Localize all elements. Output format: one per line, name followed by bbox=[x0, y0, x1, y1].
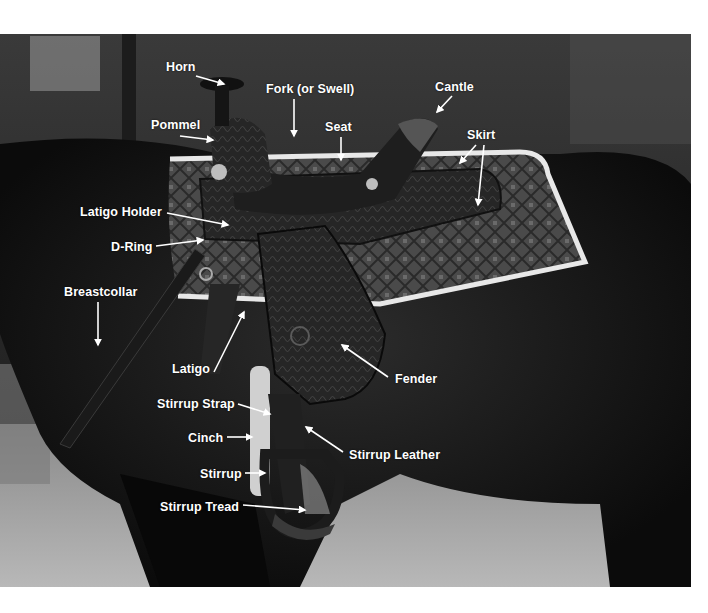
label-stirrup-tread: Stirrup Tread bbox=[160, 500, 239, 514]
label-cantle: Cantle bbox=[435, 80, 474, 94]
label-stirrup-strap: Stirrup Strap bbox=[157, 397, 235, 411]
label-latigo-holder: Latigo Holder bbox=[80, 205, 162, 219]
photo-scene bbox=[0, 34, 691, 587]
label-skirt: Skirt bbox=[467, 128, 495, 142]
label-horn: Horn bbox=[166, 60, 196, 74]
label-d-ring: D-Ring bbox=[111, 240, 153, 254]
label-stirrup: Stirrup bbox=[200, 467, 242, 481]
label-stirrup-leather: Stirrup Leather bbox=[349, 448, 440, 462]
label-seat: Seat bbox=[325, 120, 352, 134]
saddle-photo bbox=[0, 34, 691, 587]
label-pommel: Pommel bbox=[151, 118, 200, 132]
label-fender: Fender bbox=[395, 372, 437, 386]
label-fork: Fork (or Swell) bbox=[266, 82, 354, 96]
label-latigo: Latigo bbox=[172, 362, 210, 376]
label-cinch: Cinch bbox=[188, 431, 223, 445]
label-breastcollar: Breastcollar bbox=[64, 285, 137, 299]
